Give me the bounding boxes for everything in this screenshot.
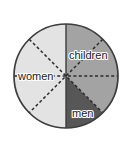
pie-label-men: men xyxy=(72,107,93,119)
pie-chart-svg: women children men xyxy=(0,0,129,142)
pie-label-women: women xyxy=(17,70,53,82)
pie-chart-figure: women children men xyxy=(0,0,129,142)
pie-label-children: children xyxy=(69,49,108,61)
